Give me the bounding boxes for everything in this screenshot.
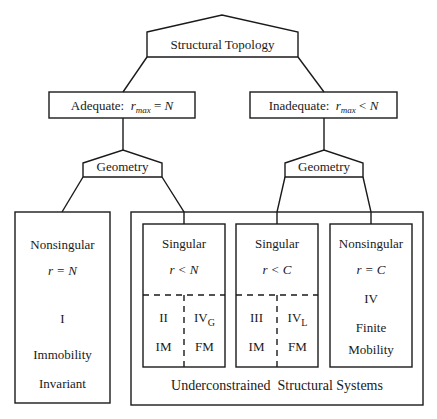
singular-inadequate-right-class-main: IV — [288, 310, 302, 325]
nonsingular-inadequate-title: Nonsingular — [330, 236, 412, 251]
singular-inadequate-condition: r < C — [236, 262, 318, 277]
edge-geometry-left-singular — [162, 177, 184, 224]
underconstrained-group-label: Underconstrained Structural Systems — [131, 378, 423, 393]
singular-adequate-left-class: II — [143, 310, 184, 325]
nonsingular-adequate-condition: r = N — [15, 263, 110, 278]
nonsingular-inadequate-line2: Mobility — [330, 342, 412, 357]
edge-root-inadequate — [298, 57, 324, 92]
singular-inadequate-right-class-sub: L — [301, 317, 307, 328]
inadequate-op: < — [359, 98, 366, 113]
geometry-left-label: Geometry — [83, 159, 162, 174]
singular-adequate-condition: r < N — [143, 262, 225, 277]
nonsingular-adequate-class: I — [15, 311, 110, 326]
adequate-op: = — [154, 98, 161, 113]
singular-inadequate-title: Singular — [236, 236, 318, 251]
edge-root-adequate — [123, 57, 147, 92]
singular-adequate-left-type: IM — [143, 339, 184, 354]
inadequate-node: Inadequate: rmax < N — [250, 98, 397, 118]
nonsingular-inadequate-class: IV — [330, 291, 412, 306]
edge-geometry-right-singular — [277, 177, 285, 224]
singular-adequate-right-class-main: IV — [194, 310, 208, 325]
singular-adequate-right-class: IVG — [184, 310, 225, 330]
adequate-rhs: N — [165, 98, 174, 113]
adequate-node: Adequate: rmax = N — [49, 98, 195, 118]
nonsingular-adequate-title: Nonsingular — [15, 237, 110, 252]
edge-geometry-right-nonsingular — [363, 177, 371, 224]
geometry-right-label: Geometry — [285, 159, 363, 174]
singular-inadequate-right-class: IVL — [277, 310, 318, 330]
inadequate-var-sub: max — [341, 105, 356, 115]
nonsingular-inadequate-condition: r = C — [330, 262, 412, 277]
singular-inadequate-left-type: IM — [236, 339, 277, 354]
singular-inadequate-left-class: III — [236, 310, 277, 325]
adequate-var-sub: max — [136, 105, 151, 115]
singular-adequate-right-class-sub: G — [208, 317, 215, 328]
adequate-label: Adequate: — [71, 98, 124, 113]
inadequate-label: Inadequate: — [269, 98, 330, 113]
singular-inadequate-right-type: FM — [277, 339, 318, 354]
root-label: Structural Topology — [147, 37, 298, 52]
nonsingular-adequate-line2: Invariant — [15, 376, 110, 391]
singular-adequate-right-type: FM — [184, 339, 225, 354]
singular-adequate-title: Singular — [143, 236, 225, 251]
edge-geometry-left-nonsingular — [62, 177, 83, 212]
nonsingular-adequate-line1: Immobility — [15, 347, 110, 362]
nonsingular-inadequate-line1: Finite — [330, 320, 412, 335]
inadequate-rhs: N — [370, 98, 379, 113]
